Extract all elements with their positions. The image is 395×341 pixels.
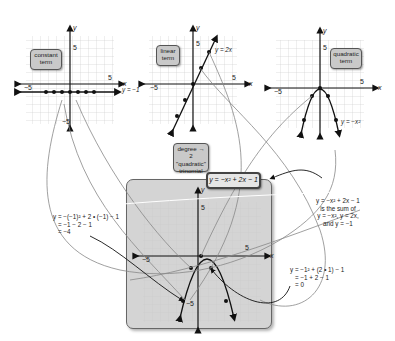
constant-term-graph: [18, 28, 122, 128]
svg-text:−5: −5: [142, 256, 150, 263]
calc-line: = −1 − 2 − 1: [53, 221, 119, 229]
bubble-line: degree → 2: [176, 145, 206, 160]
svg-text:5: 5: [360, 78, 364, 85]
bubble-line: linear: [159, 47, 177, 54]
note-line: y = −x², y = 2x,: [298, 212, 378, 220]
svg-text:x: x: [248, 80, 253, 87]
svg-text:x: x: [377, 84, 382, 91]
calc-line: = 0: [290, 281, 344, 289]
sum-note: y = −x² + 2x − 1 is the sum of y = −x², …: [298, 197, 378, 227]
calc-line: = −1 + 2 − 1: [290, 274, 344, 282]
degree-bubble: degree → 2 "quadratic" trinomial: [173, 143, 209, 172]
svg-text:−5: −5: [186, 300, 194, 307]
svg-text:−5: −5: [62, 118, 70, 125]
svg-text:y: y: [322, 27, 327, 35]
bubble-line: trinomial: [176, 167, 206, 174]
note-line: is the sum of: [298, 205, 378, 213]
constant-term-bubble: constant term: [30, 49, 62, 70]
constant-equation-label: y = −1: [122, 86, 140, 94]
svg-text:−5: −5: [150, 84, 158, 91]
svg-text:5: 5: [196, 40, 200, 47]
svg-text:5: 5: [73, 44, 77, 51]
svg-text:−5: −5: [24, 84, 32, 91]
bubble-line: "quadratic": [176, 160, 206, 167]
bubble-line: constant: [33, 51, 59, 58]
svg-text:5: 5: [232, 74, 236, 81]
bubble-line: term: [33, 58, 59, 65]
right-calculation: y = −1² + (2 • 1) − 1 = −1 + 2 − 1 = 0: [290, 266, 344, 289]
svg-text:y: y: [200, 186, 205, 194]
calc-line: = −4: [53, 228, 119, 236]
calc-line: y = −(−1)² + 2 • (−1) − 1: [53, 213, 119, 221]
svg-text:x: x: [269, 252, 274, 259]
svg-text:5: 5: [108, 74, 112, 81]
note-line: y = −x² + 2x − 1: [298, 197, 378, 205]
bubble-line: term: [333, 57, 359, 64]
svg-text:y: y: [72, 24, 77, 32]
sum-graph: [136, 190, 268, 330]
linear-term-bubble: linear term: [156, 45, 180, 66]
bubble-line: term: [159, 54, 177, 61]
quadratic-equation-label: y = −x²: [341, 118, 360, 126]
svg-text:5: 5: [201, 204, 205, 211]
main-equation-box: y = −x² + 2x − 1: [206, 172, 261, 189]
linear-equation-label: y = 2x: [215, 46, 232, 54]
svg-text:5: 5: [245, 244, 249, 251]
quadratic-term-bubble: quadratic term: [330, 48, 362, 69]
svg-text:y: y: [195, 24, 200, 32]
svg-text:−5: −5: [274, 88, 282, 95]
bubble-line: quadratic: [333, 50, 359, 57]
svg-text:5: 5: [323, 44, 327, 51]
left-calculation: y = −(−1)² + 2 • (−1) − 1 = −1 − 2 − 1 =…: [53, 213, 119, 236]
calc-line: y = −1² + (2 • 1) − 1: [290, 266, 344, 274]
note-line: and y = −1: [298, 220, 378, 228]
